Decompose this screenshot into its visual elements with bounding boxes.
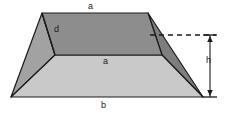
arrowhead-down-icon xyxy=(207,90,213,96)
label-d-edge: d xyxy=(54,25,59,34)
label-h-height: h xyxy=(206,56,211,65)
label-a-inner-edge: a xyxy=(103,57,108,66)
arrowhead-up-icon xyxy=(207,36,213,42)
frustum-diagram: a d a b h xyxy=(0,0,227,115)
top-face xyxy=(42,13,162,55)
label-a-top-edge: a xyxy=(88,2,93,11)
label-b-base-edge: b xyxy=(101,101,106,110)
frustum-drawing xyxy=(0,0,227,115)
